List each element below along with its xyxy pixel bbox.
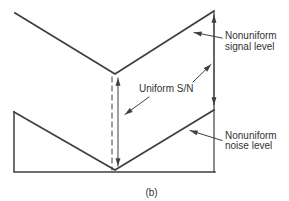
uniform-sn-label: Uniform S/N <box>139 83 193 94</box>
sn-upper-leader-arrow <box>193 65 211 83</box>
diagram-canvas: Nonuniform signal level Uniform S/N Nonu… <box>0 0 289 201</box>
signal-label-leader-arrow <box>194 33 222 39</box>
signal-label-line2: signal level <box>225 41 274 52</box>
signal-level-line <box>15 11 214 74</box>
signal-noise-diagram: Nonuniform signal level Uniform S/N Nonu… <box>0 0 289 201</box>
figure-caption: (b) <box>145 187 157 198</box>
sn-lower-leader-arrow <box>125 97 149 115</box>
signal-label-line1: Nonuniform <box>225 30 277 41</box>
noise-label-line2: noise level <box>225 140 272 151</box>
noise-label-leader-arrow <box>190 131 222 141</box>
noise-shape-outline <box>14 112 215 172</box>
noise-level-line <box>14 110 214 170</box>
